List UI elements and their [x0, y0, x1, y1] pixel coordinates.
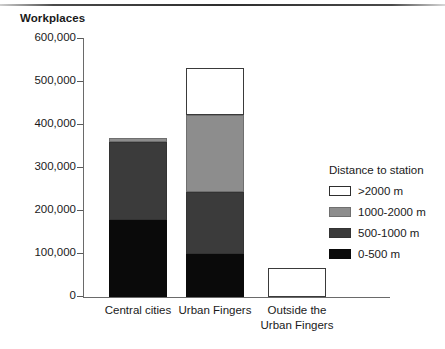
- legend-swatch-0-500m: [329, 249, 351, 259]
- bar-urban-fingers[interactable]: [186, 68, 244, 297]
- legend-title: Distance to station: [329, 164, 441, 176]
- bar-central-cities[interactable]: [109, 138, 167, 297]
- legend-swatch-500-1000m: [329, 228, 351, 238]
- chart-legend: Distance to station >2000 m 1000-2000 m …: [329, 164, 441, 269]
- bar-segment-over-2000m[interactable]: [186, 68, 244, 115]
- stacked-bar-chart: Workplaces 600,000 500,000 400,000 300,0…: [0, 0, 445, 349]
- y-axis-title: Workplaces: [20, 12, 85, 24]
- bar-segment-over-2000m[interactable]: [268, 268, 326, 297]
- bar-outside-urban-fingers[interactable]: [268, 268, 326, 297]
- bar-segment-500-1000m[interactable]: [186, 192, 244, 254]
- bar-segment-500-1000m[interactable]: [109, 142, 167, 220]
- x-category-outside-urban-fingers: Outside the Urban Fingers: [249, 303, 345, 333]
- legend-label-1000-2000m: 1000-2000 m: [358, 206, 426, 218]
- bar-segment-1000-2000m[interactable]: [186, 115, 244, 192]
- legend-label-over-2000m: >2000 m: [358, 185, 403, 197]
- legend-item-500-1000m[interactable]: 500-1000 m: [329, 227, 441, 239]
- legend-label-500-1000m: 500-1000 m: [358, 227, 419, 239]
- legend-swatch-over-2000m: [329, 186, 351, 196]
- legend-item-0-500m[interactable]: 0-500 m: [329, 248, 441, 260]
- legend-item-1000-2000m[interactable]: 1000-2000 m: [329, 206, 441, 218]
- legend-item-over-2000m[interactable]: >2000 m: [329, 185, 441, 197]
- y-axis-line: [83, 38, 84, 297]
- bar-segment-0-500m[interactable]: [186, 254, 244, 297]
- legend-swatch-1000-2000m: [329, 207, 351, 217]
- legend-label-0-500m: 0-500 m: [358, 248, 400, 260]
- bar-segment-0-500m[interactable]: [109, 220, 167, 297]
